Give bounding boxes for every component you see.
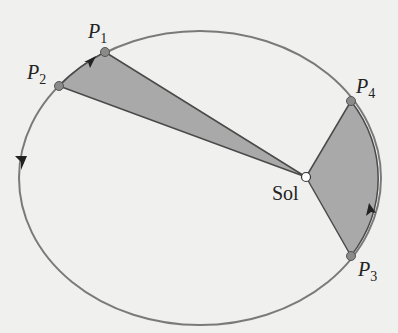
sun-point bbox=[302, 173, 311, 182]
point-p3 bbox=[347, 252, 356, 261]
point-p1 bbox=[101, 48, 110, 57]
kepler-orbit-diagram: P1 P2 P3 P4 Sol bbox=[0, 0, 398, 333]
point-p2 bbox=[55, 82, 64, 91]
point-p4 bbox=[347, 97, 356, 106]
label-sun: Sol bbox=[272, 182, 299, 204]
